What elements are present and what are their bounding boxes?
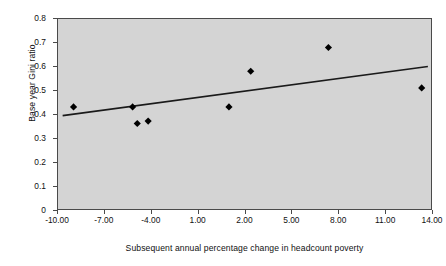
trendline-group xyxy=(63,67,428,116)
y-tick-label: 0.4 xyxy=(0,110,46,118)
y-tick-mark xyxy=(53,138,57,139)
y-tick-label: 0.1 xyxy=(0,182,46,190)
x-tick-mark xyxy=(245,210,246,214)
data-point-marker xyxy=(70,103,77,110)
x-tick-mark xyxy=(432,210,433,214)
data-point-marker xyxy=(225,103,232,110)
y-tick-label: 0 xyxy=(0,206,46,214)
x-tick-mark xyxy=(57,210,58,214)
plot-area xyxy=(57,18,432,210)
y-tick-label: 0.7 xyxy=(0,38,46,46)
x-tick-mark xyxy=(198,210,199,214)
x-tick-mark xyxy=(104,210,105,214)
x-axis-title: Subsequent annual percentage change in h… xyxy=(57,243,432,253)
y-tick-mark xyxy=(53,18,57,19)
data-point-marker xyxy=(134,120,141,127)
y-tick-label: 0.8 xyxy=(0,14,46,22)
y-tick-label: 0.5 xyxy=(0,86,46,94)
y-tick-label: 0.2 xyxy=(0,158,46,166)
data-point-group xyxy=(70,44,425,127)
trend-line xyxy=(63,67,428,116)
x-tick-label: 14.00 xyxy=(404,216,446,224)
y-tick-mark xyxy=(53,162,57,163)
scatter-chart-figure: Base year Gini ratio 00.10.20.30.40.50.6… xyxy=(0,0,446,266)
data-point-marker xyxy=(145,118,152,125)
data-point-marker xyxy=(325,44,332,51)
data-point-marker xyxy=(247,68,254,75)
data-point-marker xyxy=(129,103,136,110)
y-tick-mark xyxy=(53,90,57,91)
y-tick-label: 0.6 xyxy=(0,62,46,70)
y-tick-mark xyxy=(53,42,57,43)
x-tick-mark xyxy=(385,210,386,214)
x-tick-mark xyxy=(291,210,292,214)
data-point-marker xyxy=(418,84,425,91)
plot-canvas xyxy=(58,19,431,209)
y-tick-mark xyxy=(53,186,57,187)
x-tick-mark xyxy=(338,210,339,214)
y-tick-mark xyxy=(53,114,57,115)
y-tick-label: 0.3 xyxy=(0,134,46,142)
y-tick-mark xyxy=(53,66,57,67)
x-tick-mark xyxy=(151,210,152,214)
